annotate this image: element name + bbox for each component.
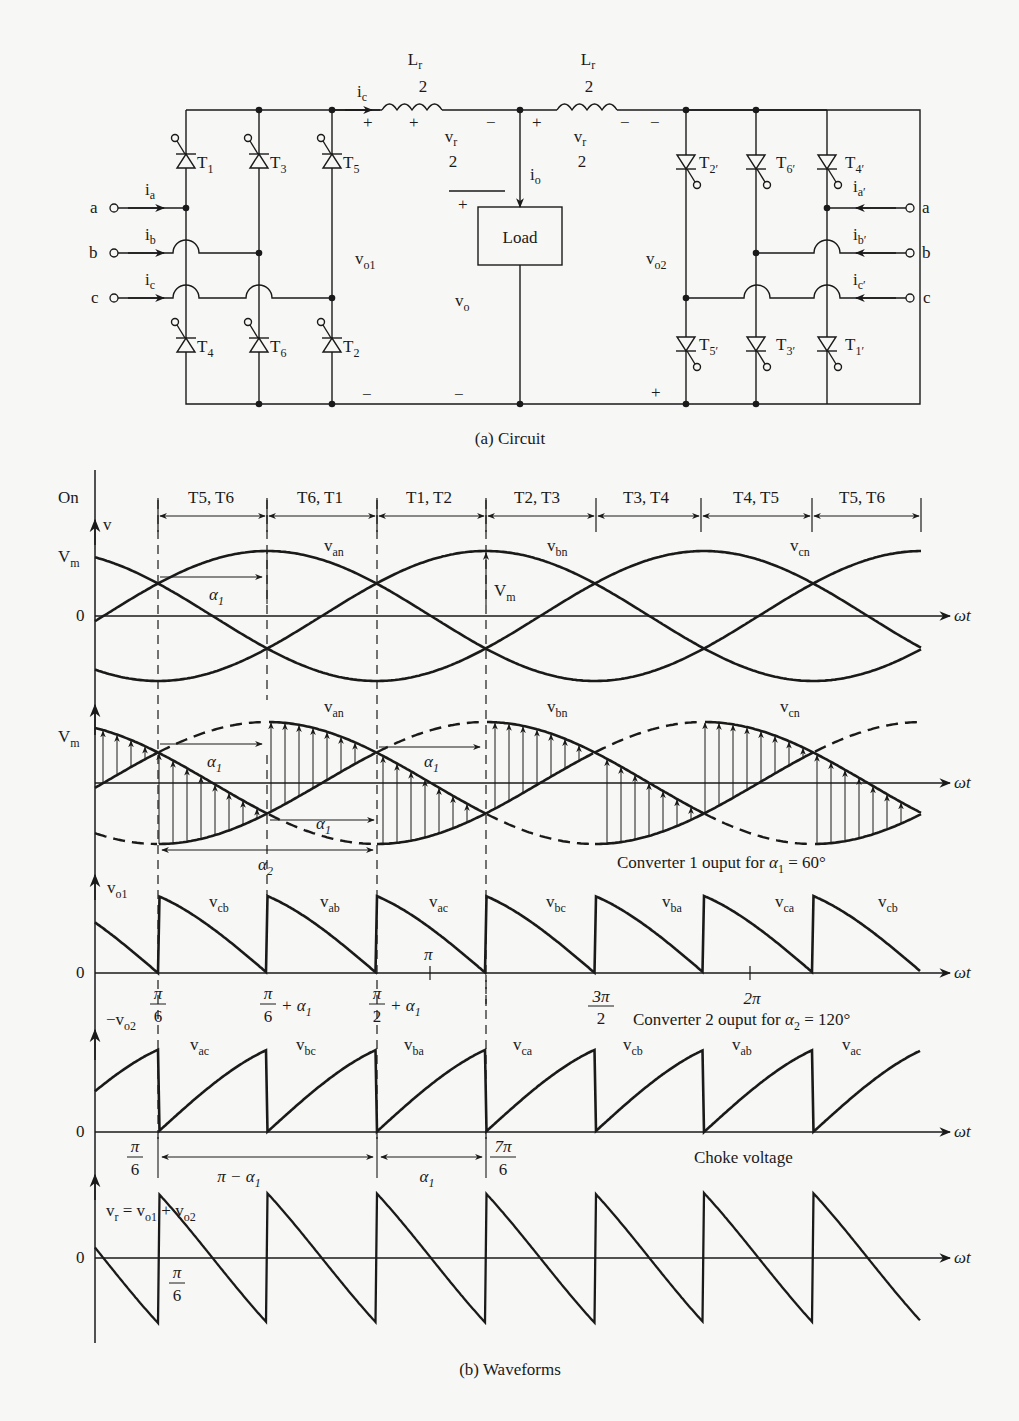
current-ic-prime: ic′ [853,270,866,292]
seg2-vab: vab [732,1035,752,1058]
label-T4p: T4′ [845,153,864,176]
seg2-vac-2: vac [842,1035,861,1058]
label-alpha1-3: α1 [424,752,439,775]
tick-2pi: 2π [743,989,761,1008]
minus-sign: − [620,113,630,132]
minus-sign: − [486,113,496,132]
label-T6: T6 [270,337,286,360]
vr2-2-num: vr [574,127,587,149]
dim-pi-minus-alpha: π − α1 [217,1167,260,1190]
label-on: On [58,488,79,507]
label-van-1: van [324,536,344,559]
plus-sign: + [363,113,373,132]
tick-pi2a-alpha: + α1 [390,996,421,1019]
current-ib: ib [145,225,156,247]
seg-vab: vab [320,892,340,915]
label-vo1: vo1 [107,878,128,901]
label-T6p: T6′ [776,153,795,176]
label-vo: vo [455,291,470,314]
tick5-pi6-num: π [173,1263,182,1282]
phase-a-right: a [922,198,930,217]
seg-vcb: vcb [209,892,229,915]
plus-sign: + [532,113,542,132]
phase-a-left: a [90,198,98,217]
label-wt-4: ωt [954,1122,972,1141]
label-T5: T5 [343,153,359,176]
phase-c-right: c [923,288,931,307]
phase-b-right: b [922,243,931,262]
label-Vm-1: Vm [58,547,80,570]
label-T3p: T3′ [776,335,795,358]
tick-pi6a-den: 6 [264,1007,273,1026]
tick-pi6-num: π [154,984,163,1003]
interval-7: T5, T6 [839,488,885,507]
label-Vm-2: Vm [58,727,80,750]
label-van-2: van [324,697,344,720]
seg-vba: vba [662,892,683,915]
current-ib-prime: ib′ [853,225,867,247]
label-wt-2: ωt [954,773,972,792]
label-wt-5: ωt [954,1248,972,1267]
figure-canvas: T1 T3 T5 T4 T6 T2 T2′ T6′ T4′ T5′ T3′ T1… [0,0,1019,1421]
plus-sign: + [458,195,468,214]
label-vo1: vo1 [355,249,376,272]
tick4-7pi6-num: 7π [494,1137,512,1156]
circuit-diagram [118,104,920,404]
minus-sign: − [454,385,464,404]
tick-pi2a-den: 2 [373,1007,382,1026]
load-label: Load [503,228,538,247]
circuit-labels: T1 T3 T5 T4 T6 T2 T2′ T6′ T4′ T5′ T3′ T1… [89,50,931,404]
vr2-2-den: 2 [578,152,587,171]
tick-pi: π [424,945,433,964]
plus-sign: + [651,383,661,402]
converter2-title: Converter 2 ouput for α2 = 120° [633,1010,850,1033]
label-T2: T2 [343,337,359,360]
tick-pi2a-num: π [373,984,382,1003]
tick-pi6-den: 6 [154,1007,163,1026]
label-zero-4: 0 [76,1122,85,1141]
seg2-vcb: vcb [623,1035,643,1058]
label-T2p: T2′ [699,153,718,176]
label-T3: T3 [270,153,286,176]
label-vcn-1: vcn [790,536,810,559]
junction-dots [183,107,831,408]
seg-vbc: vbc [546,892,566,915]
label-vcn-2: vcn [780,697,800,720]
label-vbn-2: vbn [547,697,568,720]
converter1-title: Converter 1 ouput for α1 = 60° [617,853,826,876]
inductor-1-den: 2 [419,77,428,96]
tick-pi6a-alpha: + α1 [281,996,312,1019]
tick4-pi6-num: π [131,1137,140,1156]
interval-3: T1, T2 [406,488,452,507]
label-T4: T4 [197,337,213,360]
current-ia: ia [145,180,156,202]
tick4-pi6-den: 6 [131,1160,140,1179]
interval-5: T3, T4 [623,488,669,507]
tick5-pi6-den: 6 [173,1286,182,1305]
waveforms-caption: (b) Waveforms [459,1360,561,1379]
label-wt-1: ωt [954,606,972,625]
dim-alpha1: α1 [420,1167,435,1190]
label-Vm-arrow: Vm [494,581,516,604]
label-vo2: vo2 [646,249,667,272]
label-zero-3: 0 [76,963,85,982]
tick4-7pi6-den: 6 [499,1160,508,1179]
seg2-vba: vba [404,1035,425,1058]
current-ic-top: ic [357,82,367,104]
circuit-caption: (a) Circuit [475,429,546,448]
waveform-labels: On v Vm 0 ωt T5, T6 T6, T1 T1, T2 T2, T3… [58,488,972,1305]
current-ia-prime: ia′ [853,177,866,199]
interval-4: T2, T3 [514,488,560,507]
vr2-1-den: 2 [449,152,458,171]
inductor-2-num: Lr [581,50,595,72]
label-alpha2: α2 [258,855,273,878]
phase-b-left: b [89,243,98,262]
minus-sign: − [650,113,660,132]
seg-vcb-2: vcb [878,892,898,915]
interval-2: T6, T1 [297,488,343,507]
label-vbn-1: vbn [547,536,568,559]
seg2-vac: vac [190,1035,209,1058]
vr2-1-num: vr [445,127,458,149]
current-ic: ic [145,270,155,292]
tick-3pi2-den: 2 [597,1009,606,1028]
